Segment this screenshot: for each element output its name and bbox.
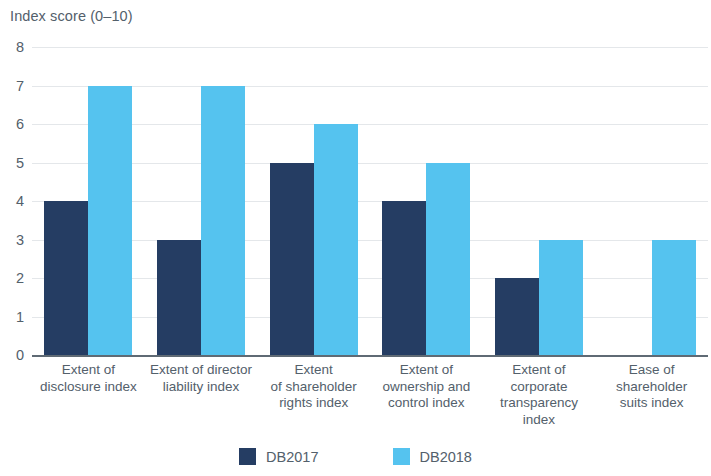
y-axis-tick-label: 2 [0, 270, 24, 286]
bar-chart: Index score (0–10) 012345678 Extent ofdi… [0, 0, 711, 476]
y-axis-tick-label: 4 [0, 193, 24, 209]
x-axis-category-label: Extent ofcorporatetransparencyindex [483, 362, 596, 428]
y-axis-tick-label: 7 [0, 78, 24, 94]
x-axis-category-labels: Extent ofdisclosure indexExtent of direc… [32, 362, 708, 442]
x-axis-category-label: Extent of directorliability index [145, 362, 258, 395]
bars-group [32, 47, 708, 355]
y-axis-tick-label: 0 [0, 347, 24, 363]
bar-db2018-3 [426, 163, 470, 356]
gridline [32, 355, 708, 357]
legend-item-db2018: DB2018 [393, 448, 472, 465]
legend-item-db2017: DB2017 [239, 448, 318, 465]
bar-db2017-1 [157, 240, 201, 356]
bar-db2018-0 [88, 86, 132, 356]
legend-label: DB2017 [266, 449, 318, 465]
y-axis-tick-label: 8 [0, 39, 24, 55]
bar-db2017-3 [382, 201, 426, 355]
bar-db2017-4 [495, 278, 539, 355]
bar-db2017-2 [270, 163, 314, 356]
legend-swatch [393, 448, 410, 465]
bar-db2017-0 [44, 201, 88, 355]
x-axis-category-label: Extent ofdisclosure index [32, 362, 145, 395]
y-axis-tick-label: 5 [0, 155, 24, 171]
x-axis-category-label: Extentof shareholderrights index [257, 362, 370, 412]
plot-area [32, 47, 708, 355]
bar-db2018-1 [201, 86, 245, 356]
bar-db2018-2 [314, 124, 358, 355]
legend-swatch [239, 448, 256, 465]
x-axis-category-label: Ease ofshareholdersuits index [595, 362, 708, 412]
y-axis-tick-label: 6 [0, 116, 24, 132]
y-axis-tick-label: 1 [0, 309, 24, 325]
bar-db2018-5 [652, 240, 696, 356]
bar-db2018-4 [539, 240, 583, 356]
x-axis-category-label: Extent ofownership andcontrol index [370, 362, 483, 412]
y-axis-tick-label: 3 [0, 232, 24, 248]
legend-label: DB2018 [420, 449, 472, 465]
y-axis-title: Index score (0–10) [10, 8, 133, 24]
chart-legend: DB2017DB2018 [0, 448, 711, 465]
